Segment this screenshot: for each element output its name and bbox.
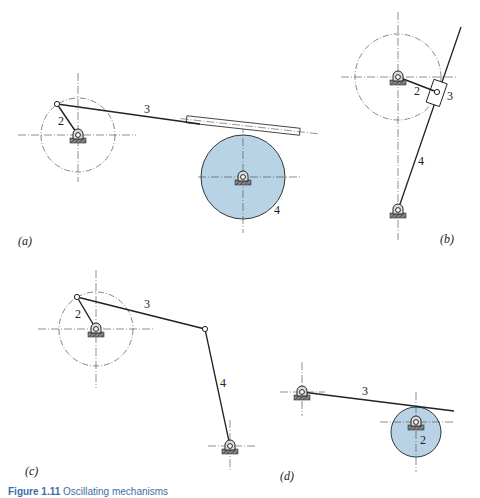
panel-d: [280, 362, 455, 472]
label-c-3: 3: [144, 297, 150, 312]
panel-label-d: (d): [280, 469, 294, 484]
label-a-3: 3: [144, 102, 150, 117]
label-b-3: 3: [447, 89, 453, 104]
label-d-3: 3: [362, 384, 368, 399]
label-c-2: 2: [75, 307, 81, 322]
label-b-2: 2: [414, 84, 420, 99]
label-b-4: 4: [418, 154, 424, 169]
panel-b: [341, 12, 461, 240]
figure-number: Figure 1.11: [8, 486, 60, 497]
panel-label-c: (c): [25, 464, 38, 479]
label-c-4: 4: [220, 376, 226, 391]
panel-label-a: (a): [18, 234, 32, 249]
label-d-2: 2: [420, 433, 426, 448]
panel-label-b: (b): [440, 232, 454, 247]
figure-caption: Figure 1.11 Oscillating mechanisms: [8, 486, 168, 497]
oscillating-mechanisms-figure: [0, 0, 480, 498]
label-a-2: 2: [58, 114, 64, 129]
figure-caption-text: Oscillating mechanisms: [63, 486, 168, 497]
label-a-4: 4: [274, 203, 280, 218]
